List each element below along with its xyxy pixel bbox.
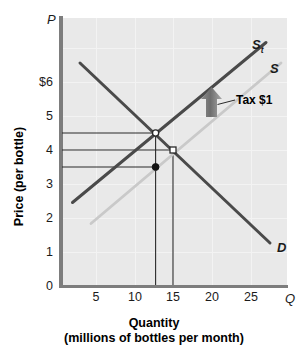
curve-label-St-text: S (252, 37, 261, 52)
curve-label-St-subscript: t (261, 45, 264, 55)
marker-old-equilibrium (170, 147, 176, 153)
x-axis-title-main: Quantity (0, 316, 308, 331)
curve-label-supply-after-tax: St (252, 37, 264, 55)
x-axis-title: Quantity (millions of bottles per month) (0, 316, 308, 346)
curve-supply-S (91, 63, 281, 224)
tax-shift-arrow-icon (201, 87, 222, 117)
y-axis-title: Price (per bottle) (13, 107, 26, 247)
marker-seller-net-price (152, 164, 159, 171)
x-axis-title-sub: (millions of bottles per month) (0, 331, 308, 346)
marker-new-equilibrium (153, 130, 159, 136)
tax-annotation-label: Tax $1 (236, 93, 272, 107)
curve-label-demand: D (277, 240, 286, 255)
curve-label-supply: S (270, 61, 279, 76)
curve-supply-St (73, 43, 267, 203)
chart-figure: P Q $6 5 4 3 2 1 0 5 10 15 20 25 (0, 0, 308, 354)
